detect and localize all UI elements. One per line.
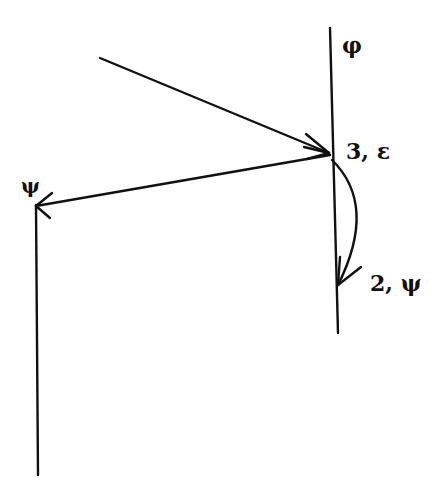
node-3-label: 3, ε xyxy=(346,140,390,162)
node-2-label: 2, ψ xyxy=(370,272,421,294)
psi-left-label: ψ xyxy=(21,176,40,196)
right-vertical-line xyxy=(330,28,338,333)
left-arrow xyxy=(36,155,330,218)
left-vertical-line xyxy=(36,205,38,475)
incoming-arrow xyxy=(100,58,329,159)
phi-label: φ xyxy=(342,34,362,56)
diagram-canvas xyxy=(0,0,444,494)
